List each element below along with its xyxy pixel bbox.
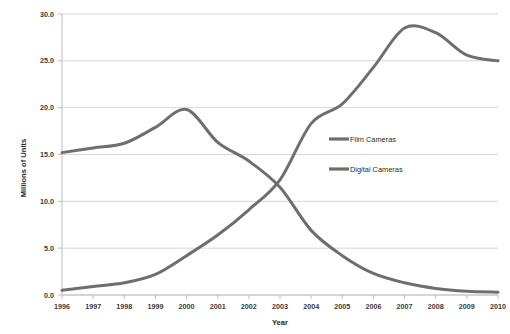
- x-tick-label: 2003: [272, 302, 288, 311]
- x-tick-label: 2010: [490, 302, 506, 311]
- x-tick-label: 2000: [179, 302, 195, 311]
- line-chart-figure: 0.05.010.015.020.025.030.0 1996199719981…: [0, 0, 510, 334]
- x-tick-labels: 1996199719981999200020012002200320042005…: [54, 302, 506, 311]
- x-tick-label: 2005: [334, 302, 350, 311]
- y-tick-label: 5.0: [44, 244, 54, 253]
- y-tick-marks: [58, 14, 62, 295]
- x-tick-label: 1996: [54, 302, 70, 311]
- x-tick-label: 2009: [459, 302, 475, 311]
- x-tick-label: 2002: [241, 302, 257, 311]
- y-axis-title: Millions of Units: [19, 139, 28, 198]
- y-tick-label: 25.0: [40, 56, 54, 65]
- x-tick-label: 2008: [428, 302, 444, 311]
- y-tick-labels: 0.05.010.015.020.025.030.0: [40, 10, 54, 300]
- x-axis-title: Year: [272, 318, 288, 327]
- legend-label-film-cameras: Film Cameras: [350, 135, 396, 144]
- y-tick-label: 15.0: [40, 150, 54, 159]
- x-tick-label: 1999: [147, 302, 163, 311]
- x-tick-label: 2006: [365, 302, 381, 311]
- legend-label-digital-cameras: Digital Cameras: [350, 165, 403, 174]
- y-tick-label: 10.0: [40, 197, 54, 206]
- x-tick-marks: [62, 295, 498, 299]
- chart-canvas: 0.05.010.015.020.025.030.0 1996199719981…: [0, 0, 510, 334]
- x-tick-label: 2001: [210, 302, 226, 311]
- y-tick-label: 20.0: [40, 103, 54, 112]
- x-tick-label: 2004: [303, 302, 319, 311]
- cropped-title-remnant: [62, 0, 302, 8]
- x-tick-label: 1997: [85, 302, 101, 311]
- x-tick-label: 1998: [116, 302, 132, 311]
- y-tick-label: 0.0: [44, 291, 54, 300]
- y-tick-label: 30.0: [40, 10, 54, 19]
- x-tick-label: 2007: [397, 302, 413, 311]
